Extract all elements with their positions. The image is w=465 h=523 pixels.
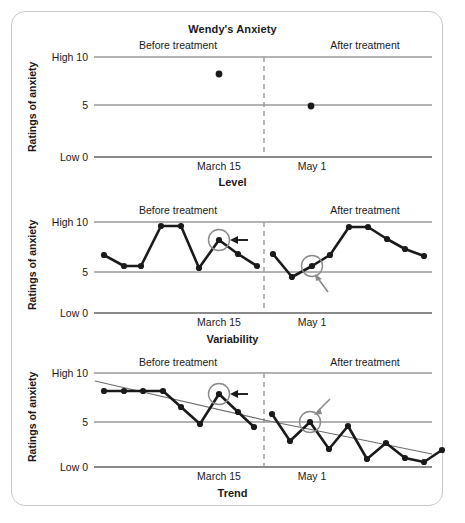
panel-variability-caption: Variability: [0, 333, 465, 345]
panel-variability-ytick-5: 5: [28, 266, 88, 278]
panel-trend-phase-after: After treatment: [310, 356, 420, 368]
figure-frame: [11, 11, 443, 506]
anxiety-figure: Wendy's Anxiety Before treatment After t…: [0, 0, 465, 523]
panel-level-xtick-after: May 1: [270, 160, 354, 172]
panel-variability-phase-after: After treatment: [310, 204, 420, 216]
panel-trend-phase-before: Before treatment: [118, 356, 238, 368]
panel-trend-ytick-5: 5: [28, 416, 88, 428]
panel-level-phase-before: Before treatment: [118, 39, 238, 51]
panel-level-xtick-before: March 15: [173, 160, 265, 172]
panel-level-caption: Level: [0, 176, 465, 188]
panel-variability-xtick-after: May 1: [270, 316, 354, 328]
panel-level-ytick-10: High 10: [28, 51, 88, 63]
panel-trend-ytick-10: High 10: [28, 367, 88, 379]
panel-trend-ytick-0: Low 0: [28, 461, 88, 473]
panel-trend-xtick-before: March 15: [173, 470, 265, 482]
panel-variability-xtick-before: March 15: [173, 316, 265, 328]
panel-trend-xtick-after: May 1: [270, 470, 354, 482]
panel-variability-ytick-0: Low 0: [28, 307, 88, 319]
figure-title: Wendy's Anxiety: [0, 23, 465, 35]
panel-variability-ytick-10: High 10: [28, 216, 88, 228]
panel-variability-phase-before: Before treatment: [118, 204, 238, 216]
panel-variability-y-axis-label: Ratings of anxiety: [26, 220, 38, 310]
panel-trend-caption: Trend: [0, 487, 465, 499]
panel-level-ytick-0: Low 0: [28, 151, 88, 163]
panel-level-phase-after: After treatment: [310, 39, 420, 51]
panel-level-ytick-5: 5: [28, 99, 88, 111]
